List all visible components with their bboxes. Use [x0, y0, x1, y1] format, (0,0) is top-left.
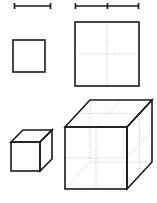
large-line-segment: [75, 3, 139, 9]
large-square: [75, 22, 139, 86]
small-square-fill: [13, 40, 45, 72]
scaling-figure: [0, 0, 157, 203]
figure-canvas: [0, 0, 157, 203]
small-square: [13, 40, 45, 72]
small-cube: [11, 130, 52, 171]
small-line-segment: [14, 3, 51, 9]
small-cube-front-face-fill: [11, 142, 40, 171]
large-cube: [65, 100, 152, 189]
